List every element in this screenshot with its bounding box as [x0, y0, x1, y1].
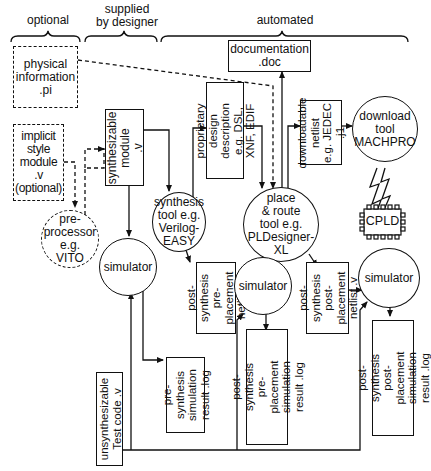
proprietary-design-label: proprietary design description e.g. DSL,… — [194, 103, 257, 159]
physical-information-label: physical information .pi — [16, 58, 75, 97]
section-label-automated: automated — [250, 14, 320, 27]
pre-synth-sim-result-label: pre-synthesis simulation result .log — [161, 369, 211, 421]
simulator-pre-synthesis: simulator — [99, 238, 157, 296]
simulator-post-synthesis-post-placement: simulator — [358, 248, 420, 308]
synthesis-tool-label: synthesis tool e.g. Verilog- EASY — [154, 196, 204, 248]
simulator-2-label: simulator — [239, 280, 288, 293]
post-synthesis-post-placement-netlist: post-synthesis post-placement netlist .v — [306, 262, 349, 334]
implicit-style-module-file: implicit style module .v (optional) — [13, 124, 64, 201]
section-label-supplied-text: supplied by designer — [96, 2, 158, 29]
pre-synthesis-simulation-result: pre-synthesis simulation result .log — [166, 357, 205, 433]
simulator-post-synthesis-pre-placement: simulator — [234, 257, 292, 315]
unsynthesizable-test-code-file: unsynthesizable Test code .v — [96, 372, 123, 466]
post-synth-pre-place-sim-result-label: post-synthesis pre-placement simulation … — [230, 360, 305, 413]
download-tool-label: download tool MACHPRO — [354, 110, 415, 149]
synthesis-tool: synthesis tool e.g. Verilog- EASY — [152, 192, 206, 252]
preprocessor-tool: pre- processor e.g. VITO — [41, 210, 99, 268]
implicit-style-module-label: implicit style module .v (optional) — [15, 130, 62, 195]
download-tool: download tool MACHPRO — [352, 96, 418, 162]
section-label-automated-text: automated — [257, 13, 314, 27]
simulator-3-label: simulator — [365, 272, 414, 285]
place-and-route-tool: place & route tool e.g. PLDesigner- XL — [243, 187, 319, 262]
cpld-label: CPLD — [364, 215, 401, 228]
documentation-file: documentation .doc — [228, 40, 311, 72]
physical-information-file: physical information .pi — [13, 46, 78, 108]
post-synthesis-pre-placement-netlist: post-synthesis pre-placement netlist .v — [196, 262, 236, 334]
proprietary-design-description: proprietary design description e.g. DSL,… — [206, 82, 244, 179]
section-label-optional: optional — [16, 14, 80, 27]
downloadable-netlist-label: downloadable netlist e.g. JEDEC .j1 — [296, 97, 346, 168]
preprocessor-label: pre- processor e.g. VITO — [44, 213, 97, 265]
post-synthesis-post-placement-simulation-result: post-synthesis post-placement simulation… — [372, 320, 414, 436]
synthesizable-module-label: synthesizable module .v — [105, 111, 144, 184]
post-synthesis-pre-placement-simulation-result: post-synthesis pre-placement simulation … — [246, 329, 288, 445]
simulator-1-label: simulator — [104, 261, 153, 274]
brace-optional — [11, 31, 80, 42]
cpld-chip: CPLD — [359, 204, 406, 240]
section-label-optional-text: optional — [27, 13, 69, 27]
section-label-supplied-by-designer: supplied by designer — [92, 3, 162, 29]
downloadable-netlist-file: downloadable netlist e.g. JEDEC .j1 — [300, 100, 342, 165]
place-and-route-label: place & route tool e.g. PLDesigner- XL — [248, 192, 315, 257]
post-synth-post-place-netlist-label: post-synthesis post-placement netlist .v — [296, 271, 359, 324]
documentation-label: documentation .doc — [230, 43, 309, 69]
brace-supplied — [85, 31, 157, 42]
unsynthesizable-test-code-label: unsynthesizable Test code .v — [97, 378, 122, 460]
post-synth-post-place-sim-result-label: post-synthesis post-placement simulation… — [356, 351, 431, 404]
synthesizable-module-file: synthesizable module .v — [105, 109, 144, 186]
